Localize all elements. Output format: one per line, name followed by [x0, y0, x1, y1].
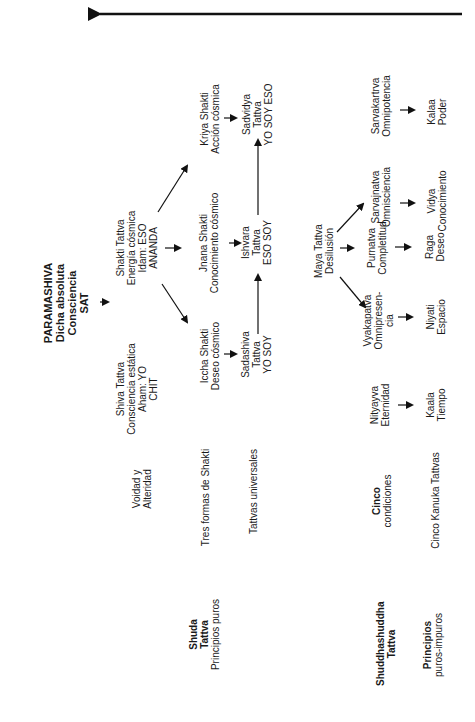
paramashiva-node: PARAMASHIVA Dicha absoluta Consciencia S… [42, 258, 88, 348]
raga-node: Raga Deseo [424, 227, 446, 267]
nityatva-node: Nityayva Eternidad [369, 377, 391, 433]
purnatva-node: Purnatva Completitud [366, 217, 388, 279]
ishvara-tattva-node: Ishvara Tattva ESO SOY [240, 213, 273, 273]
kalaa-node: Kalaa Poder [426, 90, 448, 134]
maya-tattva-node: Maya Tattva Desilusión [313, 220, 335, 282]
diagram-connectors [0, 0, 475, 722]
sadashiva-tattva-node: Sadashiva Tattva YO SOY [240, 325, 273, 385]
row-label-voidness: Voidad y Alteridad [131, 459, 153, 519]
sarvakartva-node: Sarvakartrva Omnipotencia [370, 71, 392, 141]
row-label-three-forms: Tres formas de Shakti [200, 443, 211, 553]
jnana-shakti-node: Jnana Shakti Conocimiento cósmico [198, 190, 220, 296]
vidya-node: Vidya Conocimiento [426, 169, 448, 233]
shakti-tattva-node: Shakti Tattva Energía cósmica Idam: ESO … [115, 203, 161, 293]
paramashiva-title: PARAMASHIVA [42, 258, 54, 348]
sadvidya-tattva-node: Sadvidya Tattva YO SOY ESO [241, 80, 274, 150]
row-label-five-kanuka: Cinco Kanuka Tattvas [430, 446, 441, 556]
row-label-universal: Tattvas universales [248, 442, 259, 542]
kaala-node: Kaala Tiempo [425, 383, 447, 427]
section-label-shuda: Shuda Tattva Principios puros [188, 595, 221, 675]
iccha-shakti-node: Iccha Shakti Deseo cósmico [199, 318, 221, 394]
vyakapatva-node: Vyakapatva Omnipresen- cia [362, 291, 395, 351]
kriya-shakti-node: Kriya Shakti Acción cósmica [199, 81, 221, 157]
section-label-pure-impure: Principios puros-impuros [422, 610, 444, 680]
section-label-shuddhashuddha: Shuddhashuddha Tattva [375, 602, 397, 686]
niyati-node: Niyati Espacio [425, 295, 447, 339]
shiva-tattva-node: Shiva Tattva Consciencia estática Aham: … [115, 341, 161, 437]
row-label-five-conditions: Cinco condiciones [371, 470, 393, 532]
